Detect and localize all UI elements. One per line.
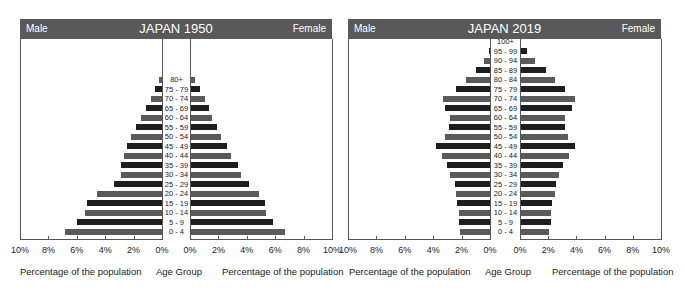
female-bar [521, 77, 555, 83]
x-tick-label: 2% [542, 245, 555, 255]
x-tick-label: 4% [427, 245, 440, 255]
age-group-label: 45 - 49 [491, 142, 520, 151]
age-group-label: 10 - 14 [491, 208, 520, 217]
chart-title: JAPAN 2019 [348, 21, 661, 36]
age-group-label: 40 - 44 [491, 151, 520, 160]
x-tick [376, 236, 377, 240]
x-tick-label: 0% [513, 245, 526, 255]
age-group-label: 60 - 64 [491, 113, 520, 122]
x-tick-label: 0% [483, 245, 496, 255]
male-bar [466, 77, 490, 83]
age-group-label: 70 - 74 [491, 94, 520, 103]
x-tick [605, 236, 606, 240]
age-group-label: 55 - 59 [491, 123, 520, 132]
male-bar [456, 191, 490, 197]
male-bar [489, 48, 490, 54]
x-tick-label: 2% [455, 245, 468, 255]
female-bar [521, 124, 565, 130]
x-tick-label: 8% [626, 245, 639, 255]
female-bar [521, 153, 569, 159]
x-tick [433, 236, 434, 240]
x-tick [348, 236, 349, 240]
x-tick [520, 236, 521, 240]
female-bar [521, 162, 563, 168]
female-bar [521, 58, 535, 64]
age-group-label: 85 - 89 [491, 66, 520, 75]
age-group-label: 30 - 34 [491, 170, 520, 179]
female-bar [521, 96, 575, 102]
age-group-label: 5 - 9 [491, 218, 520, 227]
male-bar [459, 210, 490, 216]
x-tick [576, 236, 577, 240]
female-bar [521, 172, 559, 178]
age-group-label: 50 - 54 [491, 132, 520, 141]
age-group-label: 90 - 94 [491, 56, 520, 65]
age-group-label: 35 - 39 [491, 161, 520, 170]
age-group-label: 25 - 29 [491, 180, 520, 189]
x-tick-label: 6% [398, 245, 411, 255]
male-bar [456, 86, 490, 92]
x-tick-label: 4% [570, 245, 583, 255]
female-bar [521, 200, 552, 206]
female-bar [521, 181, 556, 187]
female-bar [521, 48, 527, 54]
pyramid-2019: Male JAPAN 2019 Female 100+95 - 9990 - 9… [0, 0, 685, 291]
x-tick-label: 8% [370, 245, 383, 255]
chart-header: Male JAPAN 2019 Female [348, 19, 661, 39]
male-bar [484, 58, 490, 64]
x-tick [548, 236, 549, 240]
age-group-label: 65 - 69 [491, 104, 520, 113]
x-tick [661, 236, 662, 240]
female-bar [521, 115, 565, 121]
female-bar [521, 210, 551, 216]
male-bar [445, 134, 490, 140]
age-group-label: 95 - 99 [491, 47, 520, 56]
male-bar [459, 219, 490, 225]
male-bar [457, 200, 490, 206]
age-group-label: 20 - 24 [491, 189, 520, 198]
age-group-label: 100+ [491, 37, 520, 46]
x-tick-label: 6% [598, 245, 611, 255]
male-bar [445, 105, 490, 111]
age-group-label: 15 - 19 [491, 199, 520, 208]
male-bar [460, 229, 490, 235]
x-axis-right [520, 239, 662, 240]
female-bar [521, 143, 575, 149]
male-bar [443, 96, 490, 102]
x-axis-left [348, 239, 491, 240]
male-bar [436, 143, 490, 149]
x-tick-label: 10% [339, 245, 357, 255]
male-bar [447, 162, 490, 168]
male-bar [455, 181, 491, 187]
female-bar [521, 229, 549, 235]
x-axis-label-left: Percentage of the population [349, 266, 470, 277]
male-bar [449, 124, 490, 130]
x-tick [633, 236, 634, 240]
female-bar [521, 67, 546, 73]
age-group-label: 80 - 84 [491, 75, 520, 84]
x-tick [405, 236, 406, 240]
age-group-label: 75 - 79 [491, 85, 520, 94]
x-axis-label-center: Age Group [485, 266, 531, 277]
female-label: Female [622, 23, 655, 34]
x-tick [490, 236, 491, 240]
female-bar [521, 86, 565, 92]
male-bar [450, 172, 490, 178]
age-group-label: 0 - 4 [491, 227, 520, 236]
female-bar [521, 191, 555, 197]
male-bar [442, 153, 490, 159]
x-tick-label: 10% [652, 245, 670, 255]
female-bar [521, 134, 568, 140]
x-tick [462, 236, 463, 240]
female-bar [521, 219, 551, 225]
x-axis-label-right: Percentage of the population [552, 266, 673, 277]
male-bar [476, 67, 490, 73]
female-bar [521, 105, 572, 111]
male-bar [450, 115, 490, 121]
